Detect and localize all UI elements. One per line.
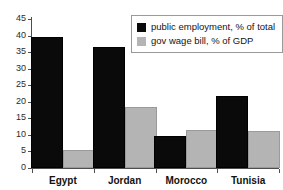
y-tick-label: 5 (21, 145, 26, 156)
x-tick-mark (32, 169, 33, 173)
bar-egypt-series-1 (63, 150, 95, 168)
x-tick-mark (217, 169, 218, 173)
legend-item-0[interactable]: public employment, % of total (137, 20, 275, 34)
x-tick-mark (94, 169, 95, 173)
bar-egypt-series-0 (31, 37, 63, 168)
y-axis-tick: 5 (0, 151, 32, 152)
y-axis-tick: 30 (0, 69, 32, 70)
x-axis-label-jordan: Jordan (94, 174, 156, 187)
y-axis-tick: 0 (0, 168, 32, 169)
y-tick-label: 20 (16, 96, 26, 107)
y-axis-tick: 45 (0, 19, 32, 20)
bar-morocco-series-0 (154, 136, 186, 168)
bar-chart: 051015202530354045 EgyptJordanMoroccoTun… (0, 0, 283, 190)
chart-legend: public employment, % of totalgov wage bi… (131, 15, 283, 53)
y-axis-tick: 40 (0, 36, 32, 37)
bar-morocco-series-1 (186, 130, 218, 168)
y-tick-label: 45 (16, 13, 26, 24)
x-axis-label-egypt: Egypt (32, 174, 94, 187)
y-axis-tick: 15 (0, 118, 32, 119)
x-axis-label-morocco: Morocco (156, 174, 218, 187)
y-tick-label: 0 (21, 162, 26, 173)
legend-label: gov wage bill, % of GDP (151, 35, 253, 47)
bar-tunisia-series-0 (216, 96, 248, 168)
x-tick-mark (279, 169, 280, 173)
y-tick-label: 15 (16, 112, 26, 123)
x-axis-label-tunisia: Tunisia (217, 174, 279, 187)
legend-label: public employment, % of total (151, 21, 275, 33)
y-tick-label: 40 (16, 30, 26, 41)
y-axis-tick: 10 (0, 135, 32, 136)
x-axis-line (28, 168, 279, 169)
bar-jordan-series-1 (125, 107, 157, 168)
bar-jordan-series-0 (93, 47, 125, 168)
y-axis-tick: 20 (0, 102, 32, 103)
legend-item-1[interactable]: gov wage bill, % of GDP (137, 34, 275, 48)
y-tick-label: 10 (16, 129, 26, 140)
x-tick-mark (156, 169, 157, 173)
bar-tunisia-series-1 (248, 131, 280, 168)
y-axis-tick: 35 (0, 52, 32, 53)
legend-swatch-icon (137, 37, 146, 46)
legend-swatch-icon (137, 23, 146, 32)
y-tick-label: 35 (16, 46, 26, 57)
y-axis-tick: 25 (0, 85, 32, 86)
y-tick-label: 25 (16, 79, 26, 90)
y-tick-label: 30 (16, 63, 26, 74)
